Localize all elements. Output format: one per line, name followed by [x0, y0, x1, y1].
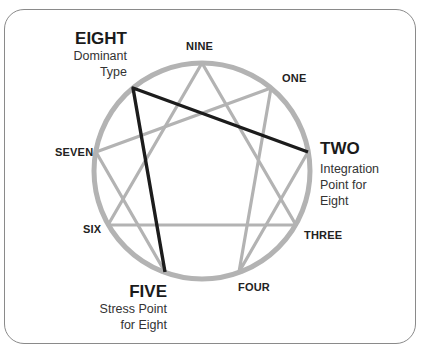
callout-eight-title: EIGHT	[75, 30, 127, 48]
enneagram-circle	[94, 63, 310, 279]
point-label-three: THREE	[304, 229, 342, 241]
callout-five-line2: for Eight	[120, 318, 167, 334]
callout-eight-line2: Type	[100, 65, 127, 81]
callout-five-line1: Stress Point	[100, 302, 167, 318]
callout-five-title: FIVE	[129, 283, 167, 301]
hexad-lines	[239, 88, 308, 272]
callout-two-line1: Integration	[320, 162, 379, 178]
callout-two-line3: Eight	[320, 194, 349, 210]
point-label-four: FOUR	[238, 281, 270, 293]
point-label-one: ONE	[282, 72, 306, 84]
callout-two-title: TWO	[320, 140, 360, 158]
point-label-six: SIX	[83, 223, 101, 235]
callout-two-line2: Point for	[320, 178, 367, 194]
point-label-nine: NINE	[186, 40, 213, 52]
point-label-seven: SEVEN	[55, 146, 93, 158]
callout-eight-line1: Dominant	[74, 49, 128, 65]
